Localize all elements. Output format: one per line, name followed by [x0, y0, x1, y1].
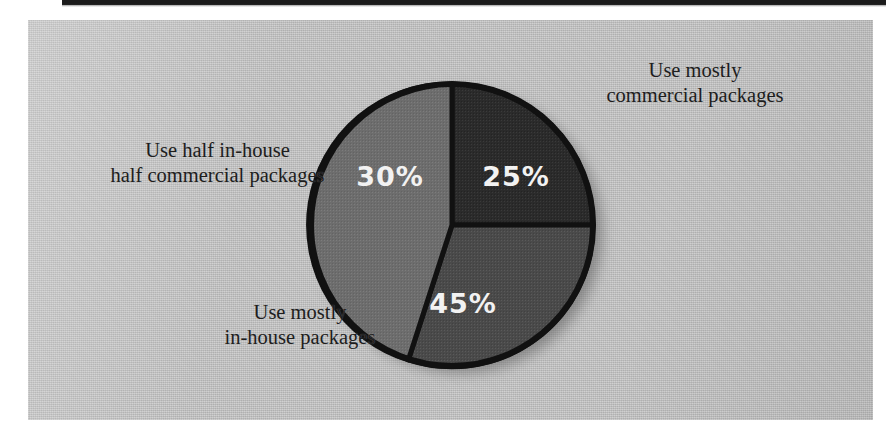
- slice-value-inhouse: 45%: [429, 288, 497, 319]
- callout-label-inhouse: Use mostly in-house packages: [180, 300, 420, 350]
- slice-value-half: 30%: [356, 161, 424, 192]
- callout-label-half: Use half in-house half commercial packag…: [85, 138, 350, 188]
- figure-page: 25% 30% 45% Use mostly commercial packag…: [0, 0, 886, 442]
- slice-value-commercial: 25%: [482, 161, 550, 192]
- callout-label-commercial: Use mostly commercial packages: [565, 58, 825, 108]
